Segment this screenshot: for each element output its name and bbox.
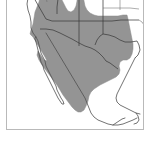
range-map-figure xyxy=(0,0,154,147)
caption-area xyxy=(0,133,154,147)
map-canvas xyxy=(0,0,154,147)
